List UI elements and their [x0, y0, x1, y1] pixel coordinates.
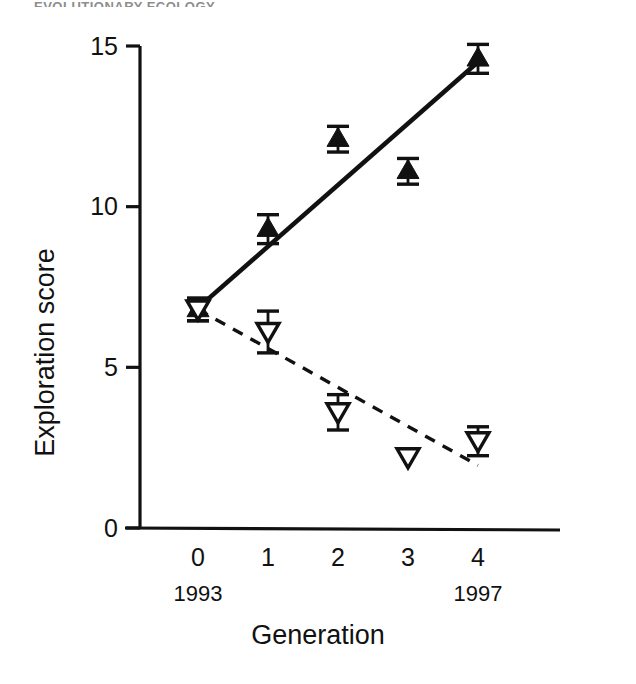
marker-open-triangle-down [327, 404, 349, 423]
data-point-s1-g3 [397, 449, 419, 468]
marker-open-triangle-down [467, 433, 489, 452]
data-point-s1-g2 [327, 395, 349, 430]
axis-lines [125, 46, 560, 530]
data-point-s1-g1 [257, 311, 279, 353]
data-series-layer [187, 44, 489, 467]
x-axis-line [125, 528, 560, 530]
marker-open-triangle-down [257, 323, 279, 342]
marker-filled-triangle-up [467, 47, 489, 66]
trend-line-series-1 [198, 309, 478, 465]
data-point-s1-g0 [187, 298, 209, 320]
y-tick-marks [126, 46, 140, 528]
data-point-s0-g2 [327, 126, 349, 152]
plot-area [0, 0, 636, 684]
marker-open-triangle-down [397, 449, 419, 468]
marker-filled-triangle-up [397, 160, 419, 179]
trend-line-series-0 [198, 62, 478, 308]
figure-container: EVOLUTIONARY ECOLOGY Exploration score 1… [0, 0, 636, 684]
data-point-s1-g4 [467, 427, 489, 456]
data-point-s0-g3 [397, 158, 419, 184]
marker-filled-triangle-up [327, 127, 349, 146]
marker-filled-triangle-up [257, 217, 279, 236]
